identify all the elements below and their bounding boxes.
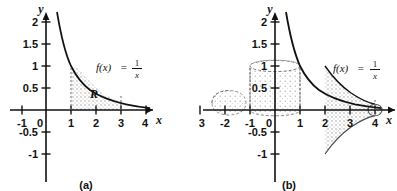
- x-tick-label: 4: [142, 117, 149, 129]
- y-axis-label: y: [36, 2, 44, 16]
- function-denominator: x: [372, 71, 377, 81]
- x-tick-label: 1: [68, 117, 74, 129]
- x-tick-label: 1: [297, 117, 303, 129]
- x-axis-label: x: [385, 113, 392, 127]
- x-tick-label: 2: [322, 117, 328, 129]
- panel-a: -1 0 1 2 3 4 2 1.5 1 0.5 -0.5 -1 y x f(x…: [0, 0, 198, 191]
- x-tick-label: 4: [372, 117, 379, 129]
- panel-caption: (a): [79, 179, 93, 191]
- x-tick-label: -2: [220, 117, 230, 129]
- y-tick-label: 1: [261, 60, 267, 72]
- function-label: f(x): [333, 62, 349, 75]
- figure-root: -1 0 1 2 3 4 2 1.5 1 0.5 -0.5 -1 y x f(x…: [0, 0, 397, 191]
- panel-caption: (b): [282, 179, 296, 191]
- y-axis-label: y: [265, 2, 273, 16]
- y-tick-label: 2: [32, 16, 38, 28]
- x-tick-label: 2: [93, 117, 99, 129]
- y-tick-label: -1: [257, 148, 267, 160]
- function-label: f(x): [96, 61, 112, 74]
- x-tick-label: 3: [347, 117, 353, 129]
- chart-b-svg: -3 -2 -1 0 1 2 3 4 2 1.5 1 0.5 -0.5 -1 y…: [199, 0, 397, 191]
- y-tick-label: 0.5: [23, 82, 38, 94]
- x-tick-label: -3: [199, 117, 205, 129]
- x-tick-label: 3: [118, 117, 124, 129]
- projected-disk-shape: [212, 91, 246, 116]
- function-numerator: 1: [135, 58, 140, 68]
- region-label: R: [89, 87, 98, 101]
- function-equals: =: [357, 62, 364, 74]
- y-tick-label: -1: [28, 148, 38, 160]
- x-axis-label: x: [155, 113, 162, 127]
- y-tick-label: -0.5: [19, 126, 38, 138]
- y-tick-label: -0.5: [248, 126, 267, 138]
- y-tick-label: 1.5: [23, 38, 38, 50]
- y-tick-label: 0.5: [252, 82, 267, 94]
- chart-a-svg: -1 0 1 2 3 4 2 1.5 1 0.5 -0.5 -1 y x f(x…: [0, 0, 198, 191]
- panel-b: -3 -2 -1 0 1 2 3 4 2 1.5 1 0.5 -0.5 -1 y…: [199, 0, 397, 191]
- function-denominator: x: [134, 70, 139, 80]
- y-tick-label: 1: [32, 60, 38, 72]
- function-numerator: 1: [373, 59, 378, 69]
- function-equals: =: [120, 61, 127, 73]
- y-tick-label: 1.5: [252, 38, 267, 50]
- y-tick-label: 2: [261, 16, 267, 28]
